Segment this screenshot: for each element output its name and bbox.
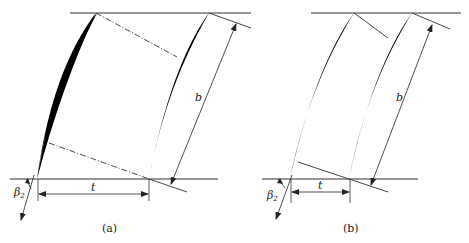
blade-1-thick xyxy=(290,13,354,179)
throat-line-top xyxy=(96,13,177,57)
chord-extension-top xyxy=(209,13,251,28)
panel-caption-b: (b) xyxy=(343,222,359,235)
chord-extension-bottom xyxy=(149,179,187,192)
panel-caption-a: (a) xyxy=(102,222,117,235)
angle-label-beta2: β2 xyxy=(13,186,25,200)
chord-label-b: b xyxy=(195,91,202,104)
blade-cascade-diagram: b t β2 (a) b t xyxy=(0,0,469,243)
chord-extension-bottom xyxy=(349,179,388,192)
blade-1-thick xyxy=(37,13,97,179)
panel-b: b t β2 (b) xyxy=(262,13,461,235)
pitch-label-t: t xyxy=(318,179,323,192)
blade-1 xyxy=(37,13,96,179)
pitch-label-t: t xyxy=(91,181,96,194)
throat-line-bottom xyxy=(49,143,149,179)
chord-label-b: b xyxy=(396,91,403,104)
angle-label-beta2: β2 xyxy=(266,189,278,203)
throat-line-bottom xyxy=(298,162,349,179)
chord-dimension-b xyxy=(371,25,432,185)
panel-a: b t β2 (a) xyxy=(10,13,251,235)
blade-1-body xyxy=(37,13,97,179)
chord-dimension-b xyxy=(171,24,236,184)
throat-line-top xyxy=(354,13,388,38)
